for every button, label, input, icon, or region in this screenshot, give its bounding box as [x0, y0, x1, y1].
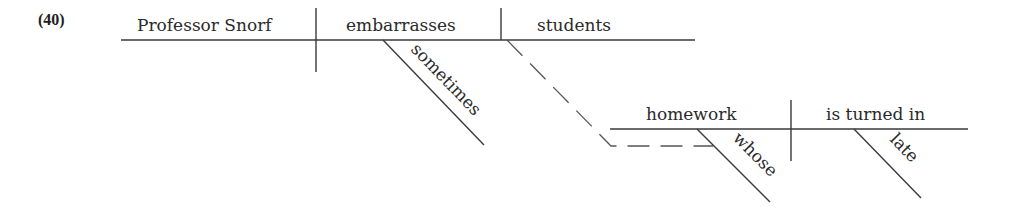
- relative-subject-determiner: whose: [729, 128, 782, 181]
- relative-clause: homework is turned in whose late: [610, 100, 968, 202]
- main-object: students: [537, 15, 611, 35]
- sentence-diagram: (40) Professor Snorf embarrasses student…: [0, 0, 1012, 207]
- relative-verb-adverb: late: [886, 129, 923, 166]
- main-clause: Professor Snorf embarrasses students som…: [121, 8, 695, 145]
- main-verb-adverb: sometimes: [407, 39, 486, 119]
- relative-verb: is turned in: [826, 104, 925, 124]
- main-verb: embarrasses: [346, 15, 456, 35]
- main-subject: Professor Snorf: [137, 15, 273, 35]
- relative-connector-dashed-line: [507, 40, 713, 146]
- relative-subject: homework: [646, 104, 737, 124]
- example-number: (40): [38, 11, 65, 29]
